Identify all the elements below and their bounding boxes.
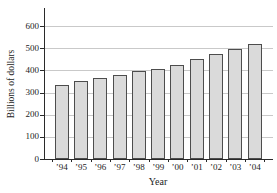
x-tick-label: ’04 bbox=[245, 162, 264, 173]
y-tick-label: 0 bbox=[0, 154, 39, 165]
bar bbox=[209, 54, 223, 159]
bar bbox=[55, 85, 69, 159]
bar bbox=[248, 44, 262, 159]
bar bbox=[93, 78, 107, 159]
bar bbox=[228, 49, 242, 159]
x-tick-label: ’96 bbox=[91, 162, 110, 173]
x-axis-line bbox=[44, 159, 273, 160]
x-tick-label: ’03 bbox=[226, 162, 245, 173]
y-tick-label: 200 bbox=[0, 109, 39, 120]
x-tick-label: ’00 bbox=[168, 162, 187, 173]
y-tick-label: 300 bbox=[0, 87, 39, 98]
bar bbox=[190, 59, 204, 159]
bar bbox=[151, 69, 165, 159]
x-tick-label: ’01 bbox=[187, 162, 206, 173]
x-tick-label: ’95 bbox=[71, 162, 90, 173]
bar bbox=[132, 71, 146, 159]
x-tick-label: ’99 bbox=[149, 162, 168, 173]
bar-chart-figure: Billions of dollars 0100200300400500600’… bbox=[0, 0, 277, 193]
y-tick-label: 400 bbox=[0, 65, 39, 76]
x-tick-label: ’98 bbox=[129, 162, 148, 173]
y-tick-label: 500 bbox=[0, 43, 39, 54]
y-axis-line bbox=[44, 8, 45, 160]
x-tick-label: ’94 bbox=[52, 162, 71, 173]
y-tick-label: 100 bbox=[0, 131, 39, 142]
gridline bbox=[44, 26, 273, 27]
x-tick-label: ’02 bbox=[206, 162, 225, 173]
y-tick-label: 600 bbox=[0, 21, 39, 32]
bar bbox=[113, 75, 127, 159]
x-axis-title: Year bbox=[103, 175, 213, 188]
bar bbox=[74, 81, 88, 159]
x-tick-label: ’97 bbox=[110, 162, 129, 173]
bar bbox=[170, 65, 184, 159]
